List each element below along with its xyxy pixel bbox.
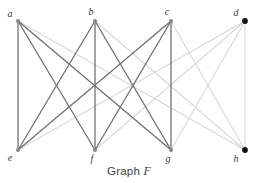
node-d[interactable]: [242, 18, 248, 24]
node-label-c: c: [165, 6, 170, 17]
node-h[interactable]: [242, 147, 248, 153]
node-e[interactable]: [16, 148, 20, 152]
node-label-d: d: [234, 7, 240, 18]
figure-caption: Graph F: [0, 164, 258, 179]
node-b[interactable]: [93, 19, 97, 23]
node-label-b: b: [89, 6, 94, 17]
graph-figure: abcdefgh Graph F: [0, 0, 258, 183]
node-g[interactable]: [169, 148, 173, 152]
node-label-g: g: [166, 153, 171, 164]
graph-canvas: abcdefgh: [0, 0, 258, 183]
caption-prefix: Graph: [107, 165, 140, 177]
node-f[interactable]: [93, 148, 97, 152]
node-label-layer: abcdefgh: [8, 6, 240, 164]
light-edge-layer: [18, 21, 245, 150]
node-a[interactable]: [16, 19, 20, 23]
caption-graph-name: F: [143, 164, 151, 178]
dark-edge-layer: [18, 21, 171, 150]
node-label-f: f: [91, 153, 95, 164]
node-label-a: a: [8, 8, 13, 19]
node-label-e: e: [8, 152, 13, 163]
node-c[interactable]: [169, 19, 173, 23]
node-label-h: h: [234, 153, 239, 164]
